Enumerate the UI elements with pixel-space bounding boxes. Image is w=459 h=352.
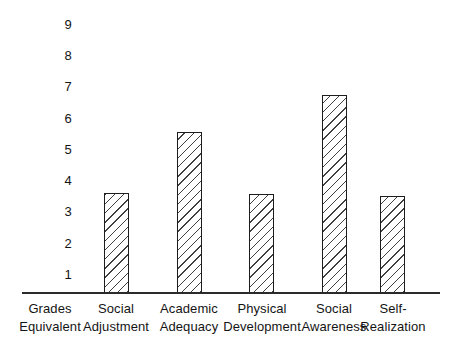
bar-social-awareness <box>322 95 347 293</box>
x-label-line2: Realization <box>343 318 443 336</box>
bar-academic-adequacy <box>177 132 202 293</box>
x-axis: Grades Equivalent Social Adjustment Acad… <box>0 300 459 352</box>
bar-physical-development <box>249 194 274 293</box>
bar-social-adjustment <box>104 193 129 293</box>
x-axis-line <box>22 292 440 294</box>
bar-chart: 9 8 7 6 5 4 3 2 1 Grades Equivalent Soci… <box>0 0 459 352</box>
plot-area <box>0 0 459 295</box>
bar-self-realization <box>380 196 405 293</box>
x-label-self-realization: Self- Realization <box>343 300 443 336</box>
x-label-line1: Self- <box>343 300 443 318</box>
